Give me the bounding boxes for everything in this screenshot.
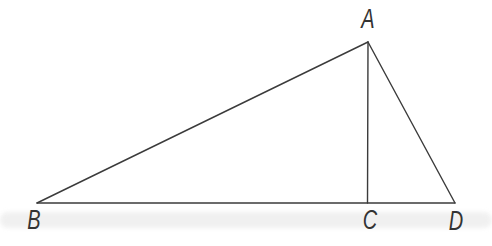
vertex-label-B: B: [27, 207, 40, 234]
vertex-label-A: A: [361, 6, 374, 33]
diagram-canvas: A B C D: [0, 0, 492, 246]
vertex-label-C: C: [363, 207, 377, 234]
edge-AC: [368, 42, 369, 203]
vertex-label-D: D: [449, 208, 463, 235]
edge-AD: [368, 42, 455, 203]
triangle-figure: [0, 0, 492, 246]
edge-BA: [37, 42, 368, 203]
